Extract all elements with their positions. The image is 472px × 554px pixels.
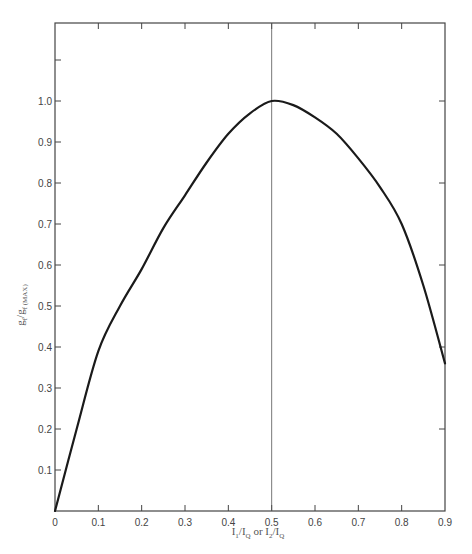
chart: 00.10.20.30.40.50.60.70.80.90.10.20.30.4… <box>0 0 472 554</box>
x-tick-label: 0.2 <box>135 517 149 528</box>
y-tick-label: 0.6 <box>38 260 52 271</box>
y-tick-label: 0.1 <box>38 465 52 476</box>
y-tick-label: 0.8 <box>38 178 52 189</box>
plot-border <box>55 23 445 511</box>
y-tick-label: 0.2 <box>38 424 52 435</box>
y-tick-label: 0.7 <box>38 219 52 230</box>
x-tick-label: 0 <box>52 517 58 528</box>
plot-frame <box>55 23 445 511</box>
y-tick-label: 0.4 <box>38 342 52 353</box>
x-tick-label: 0.1 <box>91 517 105 528</box>
x-tick-label: 0.8 <box>395 517 409 528</box>
tick-labels: 00.10.20.30.40.50.60.70.80.90.10.20.30.4… <box>38 96 452 528</box>
x-tick-label: 0.7 <box>351 517 365 528</box>
y-tick-label: 0.3 <box>38 383 52 394</box>
y-axis-label: gf/gf (MAX) <box>14 284 29 326</box>
y-tick-label: 0.9 <box>38 137 52 148</box>
x-tick-label: 0.9 <box>438 517 452 528</box>
y-tick-label: 1.0 <box>38 96 52 107</box>
x-tick-label: 0.6 <box>308 517 322 528</box>
data-curve <box>55 101 445 511</box>
x-axis-label: I1/IQ or I2/IQ <box>232 525 285 540</box>
x-tick-label: 0.3 <box>178 517 192 528</box>
y-tick-label: 0.5 <box>38 301 52 312</box>
axis-ticks <box>55 23 445 511</box>
